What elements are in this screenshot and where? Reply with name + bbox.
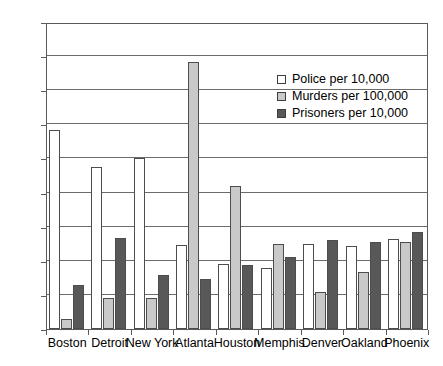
legend-swatch-police [277,75,286,84]
bar-murders [61,319,72,329]
bar-group [174,24,216,329]
x-tick-mark [343,330,344,335]
bar-murders [273,244,284,329]
legend-swatch-murders [277,92,286,101]
legend-item: Prisoners per 10,000 [277,106,408,121]
bar-murders [230,186,241,329]
bar-prisoners [158,275,169,329]
bar-police [176,245,187,329]
x-tick-mark [301,330,302,335]
x-tick-mark [88,330,89,335]
bar-murders [146,298,157,329]
bar-police [218,264,229,329]
bar-group [47,24,89,329]
bar-police [261,268,272,329]
plot-area [46,23,428,330]
bar-prisoners [200,279,211,329]
x-tick-mark [428,330,429,335]
bar-murders [315,292,326,329]
bar-group [302,24,344,329]
x-tick-mark [216,330,217,335]
x-tick-mark [173,330,174,335]
legend-item: Police per 10,000 [277,72,408,87]
bar-police [346,246,357,329]
legend-item: Murders per 100,000 [277,89,408,104]
x-tick-mark [258,330,259,335]
bar-police [134,158,145,329]
bar-prisoners [73,285,84,329]
x-tick-mark [386,330,387,335]
x-tick-mark [131,330,132,335]
legend-label: Police per 10,000 [292,73,389,86]
bar-group [344,24,386,329]
bar-chart: 051015202530354045 BostonDetroitNew York… [0,0,443,366]
bar-prisoners [412,232,423,329]
bar-murders [358,272,369,329]
legend-label: Murders per 100,000 [292,90,408,103]
bar-murders [400,242,411,329]
legend: Police per 10,000Murders per 100,000Pris… [277,72,408,123]
bar-police [91,167,102,329]
bar-prisoners [242,265,253,329]
x-tick-label: Phoenix [380,337,434,351]
bar-group [217,24,259,329]
bar-police [49,130,60,329]
legend-label: Prisoners per 10,000 [292,107,408,120]
bar-murders [103,298,114,329]
bar-prisoners [370,242,381,329]
bar-group [259,24,301,329]
bar-group [89,24,131,329]
x-tick-mark [46,330,47,335]
bar-prisoners [327,240,338,329]
bar-prisoners [285,257,296,329]
bar-police [388,239,399,329]
bar-murders [188,62,199,329]
bar-prisoners [115,238,126,329]
bar-group [132,24,174,329]
bars-layer [47,24,427,329]
bar-group [387,24,429,329]
bar-police [303,244,314,329]
legend-swatch-prisoners [277,109,286,118]
